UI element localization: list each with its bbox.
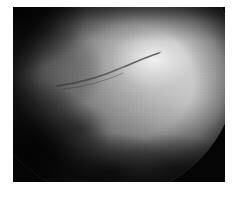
field-of-view-inner <box>13 7 225 182</box>
figure-caption <box>13 184 225 196</box>
field-of-view-disc <box>13 7 225 182</box>
medical-image-plate[interactable] <box>13 7 225 182</box>
diagonal-vessel-icon <box>13 7 225 182</box>
figure-root <box>0 0 239 198</box>
